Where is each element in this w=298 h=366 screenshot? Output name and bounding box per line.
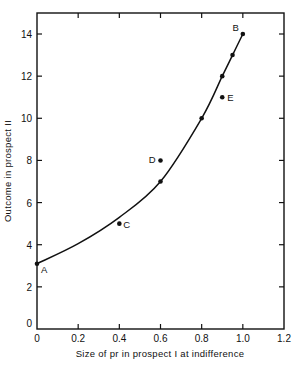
y-tick-label: 4 [26,240,32,251]
data-point [220,74,225,79]
point-label-e: E [227,92,233,103]
data-points: ACDEB [35,22,245,275]
y-tick-label: 8 [26,155,32,166]
y-tick-label: 10 [21,113,33,124]
curve-path [37,34,243,264]
data-point [158,179,163,184]
x-tick-label: 0.6 [154,333,168,344]
point-label-d: D [149,154,156,165]
fitted-curve [37,34,243,264]
x-tick-label: 0.8 [195,333,209,344]
data-point-e [220,95,225,100]
plot-border [37,13,284,329]
point-label-a: A [41,264,48,275]
y-axis-label: Outcome in prospect II [2,120,13,222]
x-tick-label: 1.2 [277,333,291,344]
y-tick-label: 2 [26,282,32,293]
point-label-b: B [232,22,238,33]
point-label-c: C [123,219,130,230]
y-tick-label: 14 [21,29,33,40]
data-point-a [35,261,40,266]
y-axis-ticks: 02468101214 [21,29,284,329]
x-tick-label: 0.2 [71,333,85,344]
chart: 00.20.40.60.81.01.2 02468101214 ACDEB Si… [0,0,298,366]
x-axis-label: Size of pr in prospect I at indifference [76,348,245,359]
data-point-d [158,158,163,163]
data-point [230,53,235,58]
data-point-c [117,221,122,226]
y-tick-label: 12 [21,71,33,82]
x-tick-label: 0.4 [112,333,126,344]
y-tick-label: 0 [26,318,32,329]
plot-frame [37,13,284,329]
data-point [199,116,204,121]
y-tick-label: 6 [26,198,32,209]
x-tick-label: 1.0 [236,333,250,344]
x-tick-label: 0 [34,333,40,344]
data-point-b [241,32,246,37]
